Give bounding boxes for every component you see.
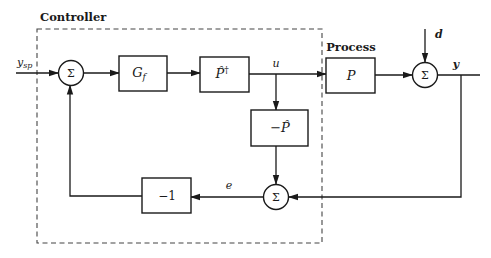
process-block: P <box>326 58 375 93</box>
control-signal-label: u <box>272 57 279 70</box>
negative-model-block: −P̂ <box>251 110 308 146</box>
process-label: Process <box>326 40 376 54</box>
svg-text:−1: −1 <box>158 189 176 203</box>
model-inverse-block: P̂† <box>200 57 249 92</box>
block-diagram: Controller ysp Σ Gf P̂† u −P̂ Σ e <box>0 0 491 258</box>
output-label: y <box>452 58 461 71</box>
filter-block-gf: Gf <box>119 56 167 91</box>
controller-label: Controller <box>40 10 107 24</box>
summing-junction-3: Σ <box>413 63 438 88</box>
input-label: ysp <box>16 56 32 70</box>
disturbance-label: d <box>435 28 443 41</box>
svg-text:Σ: Σ <box>421 69 429 82</box>
svg-text:−P̂: −P̂ <box>270 120 290 135</box>
svg-text:P: P <box>346 68 356 83</box>
summing-junction-1: Σ <box>59 61 84 86</box>
negation-block: −1 <box>142 178 191 213</box>
svg-text:Σ: Σ <box>272 191 280 204</box>
svg-text:Σ: Σ <box>67 67 75 80</box>
error-label: e <box>226 179 233 192</box>
summing-junction-2: Σ <box>264 185 289 210</box>
arrow-feedback-to-sum1 <box>70 86 142 197</box>
